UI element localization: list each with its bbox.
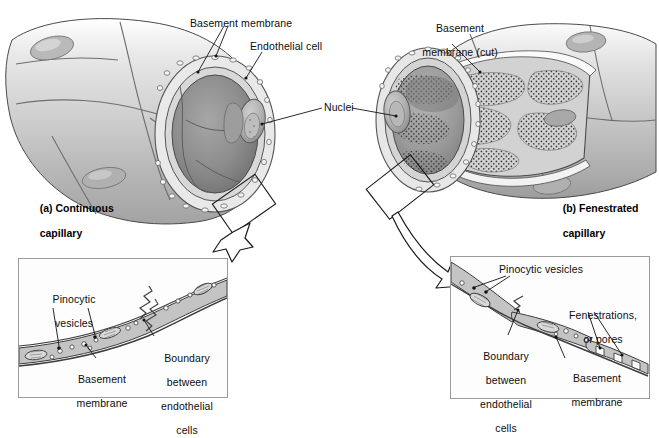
label-fenestrations-right-inset: Fenestrations, or pores bbox=[551, 297, 643, 357]
caption-a-line1: (a) Continuous bbox=[40, 202, 114, 214]
label-basement-membrane-cut-line1: Basement bbox=[436, 22, 484, 34]
label-fenestrations-line1: Fenestrations, bbox=[569, 309, 637, 321]
caption-b-line1: (b) Fenestrated bbox=[563, 202, 639, 214]
caption-a-line2: capillary bbox=[40, 227, 83, 239]
label-boundary-left-inset: Boundary between endothelial cells bbox=[141, 340, 221, 438]
label-boundary-right-line2: between bbox=[486, 374, 526, 386]
label-boundary-right-line1: Boundary bbox=[483, 350, 529, 362]
label-pinocytic-left-line1: Pinocytic bbox=[53, 293, 96, 305]
label-boundary-left-line4: cells bbox=[176, 424, 198, 436]
label-boundary-right-line3: endothelial bbox=[480, 398, 532, 410]
label-nuclei: Nuclei bbox=[324, 101, 354, 113]
caption-panel-a: (a) Continuous capillary bbox=[28, 189, 114, 252]
label-basement-left-line1: Basement bbox=[78, 373, 126, 385]
label-boundary-right-inset: Boundary between endothelial cells bbox=[460, 338, 540, 438]
label-boundary-right-line4: cells bbox=[495, 422, 517, 434]
label-pinocytic-vesicles-right: Pinocytic vesicles bbox=[478, 263, 604, 275]
label-fenestrations-line2: or pores bbox=[583, 333, 622, 345]
label-pinocytic-vesicles-left: Pinocytic vesicles bbox=[30, 281, 106, 341]
label-boundary-left-line3: endothelial bbox=[161, 400, 213, 412]
label-boundary-left-line1: Boundary bbox=[164, 352, 210, 364]
label-basement-right-line1: Basement bbox=[573, 372, 621, 384]
label-basement-membrane-left-inset: Basement membrane bbox=[52, 361, 140, 421]
label-endothelial-cell: Endothelial cell bbox=[250, 40, 322, 52]
label-basement-membrane-right-inset: Basement membrane bbox=[545, 360, 637, 420]
caption-b-line2: capillary bbox=[563, 227, 606, 239]
label-basement-membrane: Basement membrane bbox=[190, 17, 292, 29]
label-boundary-left-line2: between bbox=[167, 376, 207, 388]
label-basement-right-line2: membrane bbox=[572, 396, 623, 408]
label-basement-membrane-cut: Basement membrane (cut) bbox=[398, 10, 510, 70]
label-basement-membrane-cut-line2: membrane (cut) bbox=[422, 46, 498, 58]
caption-panel-b: (b) Fenestrated capillary bbox=[551, 189, 639, 252]
label-basement-left-line2: membrane bbox=[77, 397, 128, 409]
label-pinocytic-left-line2: vesicles bbox=[55, 317, 93, 329]
